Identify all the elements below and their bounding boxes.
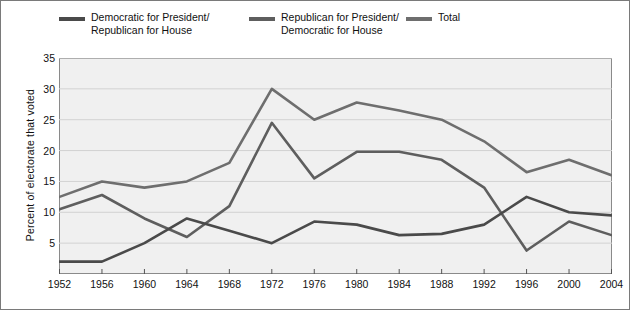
x-tick-label-2004: 2004: [600, 278, 623, 290]
legend-label-total: Total: [438, 11, 460, 24]
legend-label-republican: Republican for President/ Democratic for…: [281, 11, 399, 37]
y-tick-label-30: 30: [15, 83, 55, 95]
x-tick-label-1960: 1960: [133, 278, 156, 290]
x-tick-label-1956: 1956: [90, 278, 113, 290]
x-tick-label-1968: 1968: [218, 278, 241, 290]
series-line-0: [60, 197, 612, 262]
x-tick-label-1980: 1980: [345, 278, 368, 290]
series-line-2: [60, 89, 612, 197]
legend-item-total: Total: [406, 11, 460, 24]
x-tick-label-2000: 2000: [557, 278, 580, 290]
x-tick-label-1992: 1992: [472, 278, 495, 290]
y-tick-label-5: 5: [15, 237, 55, 249]
y-tick-label-10: 10: [15, 206, 55, 218]
y-tick-label-35: 35: [15, 52, 55, 64]
plot-lines: [59, 58, 612, 274]
legend-swatch-democratic-line-icon: [59, 17, 85, 21]
y-axis-tick-labels: 5101520253035: [11, 58, 55, 274]
legend-item-democratic: Democratic for President/ Republican for…: [59, 11, 209, 37]
x-tick-label-1988: 1988: [430, 278, 453, 290]
x-tick-label-1984: 1984: [388, 278, 411, 290]
legend-item-republican: Republican for President/ Democratic for…: [249, 11, 399, 37]
chart-legend: Democratic for President/ Republican for…: [1, 11, 630, 51]
legend-label-democratic: Democratic for President/ Republican for…: [91, 11, 209, 37]
legend-swatch-total-line-icon: [406, 17, 432, 21]
x-tick-label-1952: 1952: [48, 278, 71, 290]
x-tick-label-1976: 1976: [303, 278, 326, 290]
chart-figure: Democratic for President/ Republican for…: [0, 0, 630, 310]
x-tick-label-1996: 1996: [515, 278, 538, 290]
y-tick-label-25: 25: [15, 114, 55, 126]
x-axis-tick-labels: 1952195619601964196819721976198019841988…: [59, 278, 619, 296]
plot-area: [59, 58, 612, 274]
y-tick-label-15: 15: [15, 175, 55, 187]
x-tick-label-1964: 1964: [175, 278, 198, 290]
y-tick-label-20: 20: [15, 145, 55, 157]
legend-swatch-republican-line-icon: [249, 17, 275, 21]
x-tick-label-1972: 1972: [260, 278, 283, 290]
